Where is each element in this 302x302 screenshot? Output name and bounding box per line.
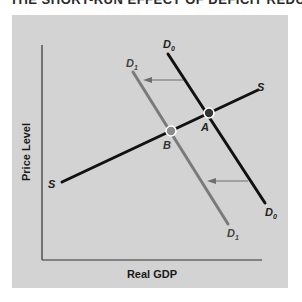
svg-text:0: 0 — [171, 45, 175, 52]
d0-label-top: D 0 — [163, 38, 175, 52]
d1-demand-curve — [133, 72, 228, 224]
svg-text:D: D — [227, 227, 235, 239]
svg-text:1: 1 — [235, 234, 239, 241]
d1-label-top: D 1 — [126, 57, 138, 71]
d1-label-bottom: D 1 — [227, 227, 239, 241]
x-axis-label: Real GDP — [127, 268, 177, 280]
arrow-left-icon — [207, 178, 216, 184]
svg-text:D: D — [126, 57, 134, 69]
shift-arrow-upper — [143, 77, 183, 83]
supply-label-start: S — [48, 178, 56, 190]
svg-text:D: D — [265, 206, 273, 218]
supply-label-end: S — [257, 81, 265, 93]
ad-as-diagram: Price Level Real GDP A B S S D 0 D 0 D 1… — [0, 0, 302, 302]
y-axis-label: Price Level — [20, 123, 32, 181]
arrow-left-icon — [143, 77, 152, 83]
shift-arrow-lower — [207, 178, 248, 184]
svg-text:D: D — [163, 38, 171, 50]
equilibrium-point-a — [204, 108, 214, 118]
equilibrium-point-b — [166, 126, 176, 136]
svg-text:0: 0 — [273, 213, 277, 220]
svg-text:1: 1 — [134, 64, 138, 71]
point-b-label: B — [163, 139, 171, 151]
point-a-label: A — [200, 121, 209, 133]
d0-label-bottom: D 0 — [265, 206, 277, 220]
supply-curve — [62, 90, 258, 182]
